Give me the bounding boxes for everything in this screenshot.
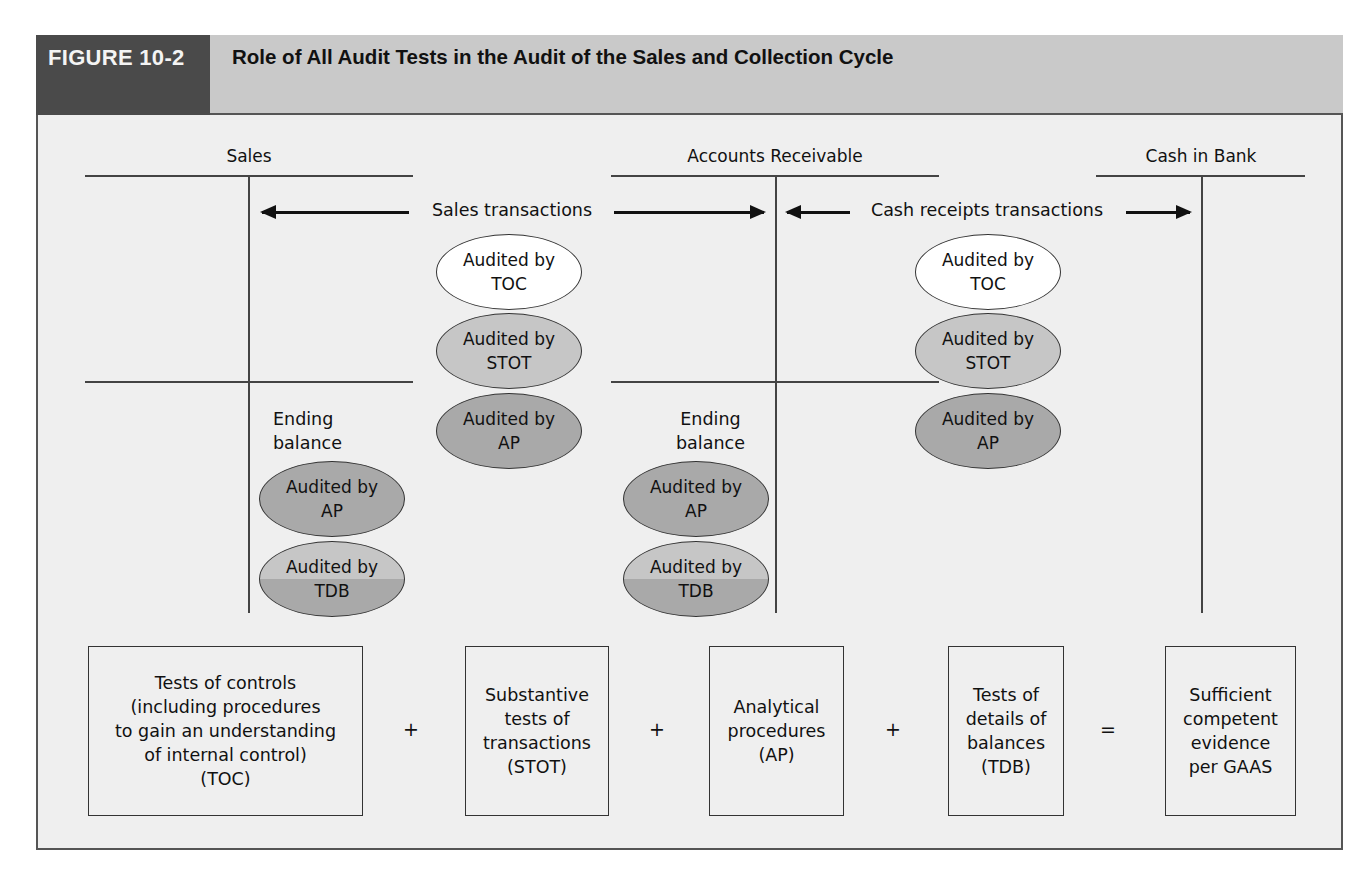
ellipse-line2: AP bbox=[498, 431, 520, 455]
ending-balance-line1: Ending bbox=[676, 407, 745, 431]
ellipse-line2: STOT bbox=[487, 351, 532, 375]
t-account-cash-vertical-line bbox=[1201, 175, 1203, 613]
account-title-cash-in-bank: Cash in Bank bbox=[1146, 146, 1257, 166]
ellipse-sales-audited-by-stot: Audited by STOT bbox=[436, 313, 582, 389]
ellipse-line1: Audited by bbox=[942, 248, 1034, 272]
ending-balance-line2: balance bbox=[273, 431, 342, 455]
figure-title: Role of All Audit Tests in the Audit of … bbox=[210, 35, 1343, 115]
ellipse-line2: TOC bbox=[491, 272, 527, 296]
ellipse-line2: AP bbox=[321, 499, 343, 523]
ellipse-line1: Audited by bbox=[650, 475, 742, 499]
ellipse-line2: TDB bbox=[314, 579, 349, 603]
box-line: Tests of bbox=[973, 683, 1039, 707]
operator-plus-1: + bbox=[403, 718, 419, 740]
operator-equals: = bbox=[1100, 718, 1116, 740]
ellipse-line2: TDB bbox=[678, 579, 713, 603]
operator-plus-2: + bbox=[649, 718, 665, 740]
arrow-left-to-ar bbox=[787, 211, 850, 214]
ellipse-line1: Audited by bbox=[463, 407, 555, 431]
ending-balance-label-sales: Ending balance bbox=[273, 407, 342, 455]
box-line: Substantive bbox=[485, 683, 589, 707]
ellipse-line1: Audited by bbox=[463, 248, 555, 272]
ellipse-line1: Audited by bbox=[286, 475, 378, 499]
ellipse-line1: Audited by bbox=[942, 327, 1034, 351]
box-sufficient-evidence: Sufficient competent evidence per GAAS bbox=[1165, 646, 1296, 816]
ellipse-line1: Audited by bbox=[463, 327, 555, 351]
ellipse-line2: STOT bbox=[966, 351, 1011, 375]
box-line: of internal control) bbox=[144, 743, 307, 767]
box-substantive-tests: Substantive tests of transactions (STOT) bbox=[465, 646, 609, 816]
box-line: (AP) bbox=[758, 743, 794, 767]
box-line: evidence bbox=[1191, 731, 1270, 755]
ellipse-sales-balance-audited-by-ap: Audited by AP bbox=[259, 461, 405, 537]
ending-balance-line2: balance bbox=[676, 431, 745, 455]
ellipse-cash-audited-by-stot: Audited by STOT bbox=[915, 313, 1061, 389]
ellipse-line2: TOC bbox=[970, 272, 1006, 296]
ellipse-ar-balance-audited-by-tdb: Audited by TDB bbox=[623, 541, 769, 617]
account-title-sales: Sales bbox=[226, 146, 271, 166]
ellipse-ar-balance-audited-by-ap: Audited by AP bbox=[623, 461, 769, 537]
arrow-right-to-ar bbox=[614, 211, 764, 214]
ellipse-line1: Audited by bbox=[650, 555, 742, 579]
box-line: Analytical bbox=[734, 695, 820, 719]
box-line: to gain an understanding bbox=[115, 719, 336, 743]
ending-balance-label-ar: Ending balance bbox=[676, 407, 745, 455]
box-line: per GAAS bbox=[1189, 755, 1273, 779]
box-line: Sufficient bbox=[1189, 683, 1271, 707]
operator-plus-3: + bbox=[885, 718, 901, 740]
box-line: (STOT) bbox=[507, 755, 567, 779]
box-line: procedures bbox=[728, 719, 826, 743]
transaction-label-sales: Sales transactions bbox=[432, 200, 592, 220]
transaction-label-cash-receipts: Cash receipts transactions bbox=[871, 200, 1103, 220]
box-line: tests of bbox=[504, 707, 569, 731]
ellipse-sales-audited-by-ap: Audited by AP bbox=[436, 393, 582, 469]
t-account-ar-vertical-line bbox=[775, 175, 777, 613]
box-line: (TOC) bbox=[200, 767, 250, 791]
t-account-ar-balance-line bbox=[611, 381, 939, 383]
box-line: transactions bbox=[483, 731, 591, 755]
box-analytical-procedures: Analytical procedures (AP) bbox=[709, 646, 844, 816]
box-line: (TDB) bbox=[981, 755, 1031, 779]
ending-balance-line1: Ending bbox=[273, 407, 342, 431]
figure-label: FIGURE 10-2 bbox=[36, 35, 210, 115]
account-title-accounts-receivable: Accounts Receivable bbox=[687, 146, 862, 166]
ellipse-sales-balance-audited-by-tdb: Audited by TDB bbox=[259, 541, 405, 617]
ellipse-line2: AP bbox=[977, 431, 999, 455]
box-tests-of-details: Tests of details of balances (TDB) bbox=[948, 646, 1064, 816]
box-line: Tests of controls bbox=[155, 671, 296, 695]
t-account-sales-vertical-line bbox=[248, 175, 250, 613]
ellipse-line1: Audited by bbox=[942, 407, 1034, 431]
ellipse-sales-audited-by-toc: Audited by TOC bbox=[436, 234, 582, 310]
box-line: balances bbox=[967, 731, 1045, 755]
ellipse-cash-audited-by-ap: Audited by AP bbox=[915, 393, 1061, 469]
ellipse-line2: AP bbox=[685, 499, 707, 523]
t-account-sales-balance-line bbox=[85, 381, 413, 383]
ellipse-line1: Audited by bbox=[286, 555, 378, 579]
box-line: (including procedures bbox=[131, 695, 321, 719]
box-tests-of-controls: Tests of controls (including procedures … bbox=[88, 646, 363, 816]
ellipse-cash-audited-by-toc: Audited by TOC bbox=[915, 234, 1061, 310]
box-line: details of bbox=[966, 707, 1047, 731]
arrow-left-to-sales bbox=[262, 211, 409, 214]
box-line: competent bbox=[1183, 707, 1278, 731]
arrow-right-to-cash bbox=[1126, 211, 1190, 214]
